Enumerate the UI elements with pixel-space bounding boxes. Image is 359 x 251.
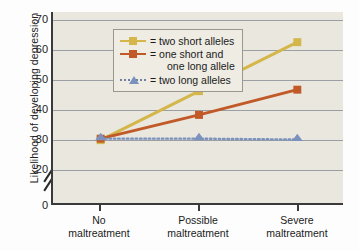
legend-label-two-long-alleles: = two long alleles <box>150 74 231 86</box>
data-point-marker <box>195 111 203 119</box>
legend-label-one-short-one-long: = one short and <box>150 48 223 60</box>
legend-item-two-long-alleles: = two long alleles <box>119 73 235 86</box>
x-axis-tick-label: Severemaltreatment <box>237 214 357 240</box>
legend-item-two-short-alleles: = two short alleles <box>119 34 235 47</box>
y-axis-tick-label: .30 <box>16 134 48 145</box>
x-axis-tick-marks <box>51 205 343 213</box>
legend-marker-square-gold <box>119 35 147 47</box>
data-point-marker <box>292 134 303 141</box>
legend-marker-square-orange <box>119 48 147 60</box>
y-axis-tick-label: .20 <box>16 164 48 175</box>
x-axis-tick-labels: NomaltreatmentPossiblemaltreatmentSevere… <box>51 214 343 248</box>
y-axis-tick-label: .40 <box>16 104 48 115</box>
y-axis-tick-label: .60 <box>16 44 48 55</box>
legend-label-one-short-one-long-line2: one long allele <box>119 60 235 73</box>
x-axis-tick-label-line1: Possible <box>178 214 218 226</box>
data-point-marker <box>194 133 205 140</box>
legend-marker-triangle-blue <box>119 74 147 86</box>
y-axis-tick-label: .70 <box>16 14 48 25</box>
data-point-marker <box>293 86 301 94</box>
chart-figure: Likelihood of developing depression .70.… <box>0 0 359 251</box>
plot-area: = two short alleles = one short and one … <box>51 12 343 205</box>
x-axis-tick-label-line2: maltreatment <box>237 227 357 240</box>
legend-label-two-short-alleles: = two short alleles <box>150 35 234 47</box>
chart-legend: = two short alleles = one short and one … <box>113 29 243 92</box>
x-axis-tick-label-line1: No <box>92 214 105 226</box>
x-axis-tick-label-line1: Severe <box>280 214 313 226</box>
data-point-marker <box>293 38 301 46</box>
legend-item-one-short-one-long: = one short and <box>119 47 235 60</box>
x-axis-tick-mark <box>198 205 200 211</box>
x-axis-tick-mark <box>297 205 299 211</box>
y-axis-tick-label: .50 <box>16 74 48 85</box>
x-axis-tick-mark <box>99 205 101 211</box>
